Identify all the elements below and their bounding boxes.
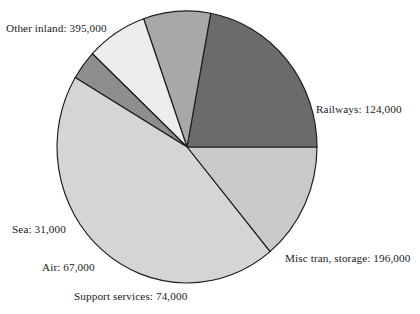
pie-label-railways: Railways: 124,000 bbox=[316, 103, 402, 116]
pie-label-misc-tran-storage: Misc tran, storage: 196,000 bbox=[285, 252, 410, 265]
pie-label-air: Air: 67,000 bbox=[42, 261, 95, 274]
pie-label-sea: Sea: 31,000 bbox=[12, 223, 66, 236]
pie-chart-figure: Other inland: 395,000 Railways: 124,000 … bbox=[0, 0, 420, 314]
pie-label-support-services: Support services: 74,000 bbox=[74, 290, 187, 303]
pie-label-other-inland: Other inland: 395,000 bbox=[6, 22, 107, 35]
pie-slice-group bbox=[57, 11, 317, 283]
